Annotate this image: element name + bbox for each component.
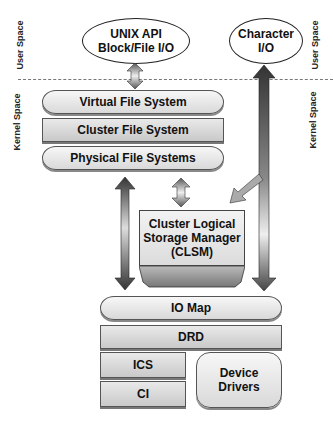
clsm-line2: Storage Manager [143, 231, 240, 245]
clsm-box: Cluster Logical Storage Manager (CLSM) [139, 210, 245, 288]
unix-vfs-double-arrow-icon [127, 63, 143, 89]
clsm-line3: (CLSM) [171, 245, 213, 259]
io-map-layer: IO Map [100, 296, 282, 320]
pfs-iomap-double-arrow-icon [115, 177, 135, 290]
device-drivers-layer: Device Drivers [196, 352, 282, 408]
ics-layer: ICS [100, 352, 186, 378]
clsm-base-bevel [139, 266, 245, 288]
char-to-clsm-arrow-icon [230, 174, 263, 203]
ci-layer: CI [100, 381, 186, 407]
clsm-line1: Cluster Logical [149, 217, 236, 231]
device-drivers-line2: Drivers [218, 380, 259, 394]
pfs-clsm-double-arrow-icon [172, 178, 190, 207]
cluster-file-system-layer: Cluster File System [42, 118, 224, 142]
device-drivers-line1: Device [220, 366, 259, 380]
drd-layer: DRD [100, 325, 282, 349]
physical-file-systems-layer: Physical File Systems [42, 146, 224, 170]
virtual-file-system-layer: Virtual File System [42, 90, 224, 114]
